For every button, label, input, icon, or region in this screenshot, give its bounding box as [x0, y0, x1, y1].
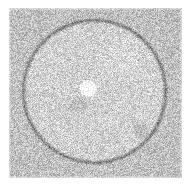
figure-stage	[0, 0, 191, 186]
noise-field-canvas	[0, 0, 191, 186]
